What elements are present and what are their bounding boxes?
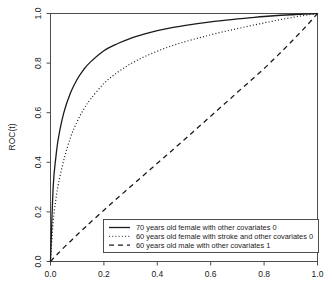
x-tick-label: 0.4	[151, 269, 163, 279]
y-axis-title: ROC(t)	[7, 123, 17, 150]
y-tick-label: 0.4	[33, 156, 43, 168]
x-axis-ticks	[51, 262, 318, 266]
x-axis-tick-labels: 0.0 0.2 0.4 0.6 0.8 1.0	[45, 269, 324, 279]
roc-plot-canvas: 0.0 0.2 0.4 0.6 0.8 1.0 ROC(t) 0.0 0.2 0…	[0, 0, 332, 291]
x-tick-label: 1.0	[312, 269, 324, 279]
y-axis-ticks	[47, 14, 51, 262]
y-tick-label: 1.0	[33, 7, 43, 19]
legend-item-1[interactable]: 60 years old female with stroke and othe…	[109, 232, 313, 241]
x-tick-label: 0.6	[205, 269, 217, 279]
legend-label: 60 years old male with other covariates …	[136, 241, 270, 250]
y-tick-label: 0.8	[33, 57, 43, 69]
legend-label: 70 years old female with other covariate…	[136, 223, 277, 232]
y-tick-label: 0.6	[33, 107, 43, 119]
x-tick-label: 0.8	[258, 269, 270, 279]
y-tick-label: 0.0	[33, 255, 43, 267]
x-tick-label: 0.0	[45, 269, 57, 279]
y-tick-label: 0.2	[33, 206, 43, 218]
y-axis-tick-labels: 0.0 0.2 0.4 0.6 0.8 1.0	[33, 7, 43, 267]
legend-label: 60 years old female with stroke and othe…	[136, 232, 313, 241]
x-tick-label: 0.2	[98, 269, 110, 279]
roc-chart-figure: 0.0 0.2 0.4 0.6 0.8 1.0 ROC(t) 0.0 0.2 0…	[0, 0, 332, 291]
legend[interactable]: 70 years old female with other covariate…	[104, 220, 319, 253]
